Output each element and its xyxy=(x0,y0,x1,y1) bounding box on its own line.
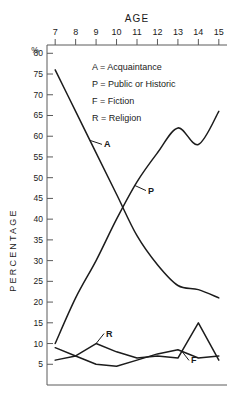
y-tick-label: 35 xyxy=(34,235,44,245)
leader-line-r xyxy=(96,334,104,344)
x-tick-label: 7 xyxy=(53,27,58,37)
curve-public-or-historic xyxy=(55,111,219,343)
y-tick-label: 45 xyxy=(34,193,44,203)
curve-label-f: F xyxy=(191,355,197,365)
y-tick-label: 60 xyxy=(34,131,44,141)
y-tick-label: 40 xyxy=(34,214,44,224)
y-tick-label: 25 xyxy=(34,276,44,286)
legend: A = AcquaintanceP = Public or HistoricF … xyxy=(92,62,176,123)
y-tick-label: 5 xyxy=(38,359,43,369)
x-tick-label: 14 xyxy=(193,27,203,37)
y-tick-label: 55 xyxy=(34,152,44,162)
chart-container: 789101112131415 807570656055504540353025… xyxy=(0,0,236,398)
y-tick-label: 65 xyxy=(34,110,44,120)
curve-label-r: R xyxy=(106,329,113,339)
legend-item-f: F = Fiction xyxy=(92,96,134,106)
axes xyxy=(47,45,227,385)
legend-item-r: R = Religion xyxy=(92,113,141,123)
y-axis-tick-labels: 8075706560555045403530252015105 xyxy=(34,48,44,369)
y-axis-title: PERCENTAGE xyxy=(8,208,18,291)
curve-label-p: P xyxy=(148,186,154,196)
y-tick-label: 50 xyxy=(34,173,44,183)
x-axis-tick-labels: 789101112131415 xyxy=(53,27,224,37)
y-tick-label: 75 xyxy=(34,69,44,79)
x-axis-title: AGE xyxy=(125,13,150,24)
leader-line-p xyxy=(135,186,146,191)
y-axis-ticks xyxy=(47,53,53,364)
y-tick-label: 70 xyxy=(34,90,44,100)
x-tick-label: 12 xyxy=(152,27,162,37)
percent-symbol-label: % xyxy=(31,45,39,55)
y-tick-label: 15 xyxy=(34,318,44,328)
legend-item-a: A = Acquaintance xyxy=(92,62,162,72)
legend-item-p: P = Public or Historic xyxy=(92,79,176,89)
x-tick-label: 10 xyxy=(112,27,122,37)
y-tick-label: 30 xyxy=(34,256,44,266)
line-chart: 789101112131415 807570656055504540353025… xyxy=(0,0,236,398)
x-axis-ticks xyxy=(55,39,219,45)
x-tick-label: 9 xyxy=(94,27,99,37)
x-tick-label: 15 xyxy=(214,27,224,37)
y-tick-label: 20 xyxy=(34,297,44,307)
curve-acquaintance xyxy=(55,70,219,298)
x-tick-label: 11 xyxy=(132,27,141,37)
curve-label-a: A xyxy=(104,139,111,149)
x-tick-label: 8 xyxy=(73,27,78,37)
y-tick-label: 10 xyxy=(34,339,44,349)
x-tick-label: 13 xyxy=(173,27,183,37)
